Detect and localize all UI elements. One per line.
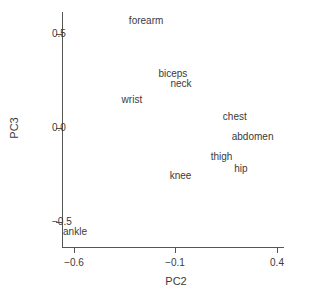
x-tick-mark-0 bbox=[74, 247, 75, 253]
x-tick-label-0: −0.6 bbox=[64, 258, 84, 268]
data-point-label-wrist: wrist bbox=[122, 95, 143, 105]
data-point-label-thigh: thigh bbox=[211, 152, 233, 162]
x-axis-title: PC2 bbox=[165, 275, 186, 287]
y-axis-title: PC3 bbox=[8, 117, 20, 138]
x-tick-label-2: 0.4 bbox=[270, 258, 284, 268]
data-point-label-abdomen: abdomen bbox=[232, 132, 274, 142]
x-tick-mark-2 bbox=[277, 247, 278, 253]
plot-area: 0.5 0.0 −0.5 −0.6 −0.1 0.4 PC2 PC3 forea… bbox=[0, 0, 310, 295]
data-point-label-ankle: ankle bbox=[63, 227, 87, 237]
data-point-label-neck: neck bbox=[170, 79, 191, 89]
data-point-label-hip: hip bbox=[234, 164, 247, 174]
x-tick-mark-1 bbox=[175, 247, 176, 253]
data-point-label-knee: knee bbox=[170, 171, 192, 181]
x-axis-line bbox=[62, 247, 284, 248]
data-point-label-chest: chest bbox=[223, 112, 247, 122]
x-tick-label-1: −0.1 bbox=[165, 258, 185, 268]
data-point-label-forearm: forearm bbox=[129, 16, 163, 26]
scatter-plot-figure: 0.5 0.0 −0.5 −0.6 −0.1 0.4 PC2 PC3 forea… bbox=[0, 0, 310, 295]
